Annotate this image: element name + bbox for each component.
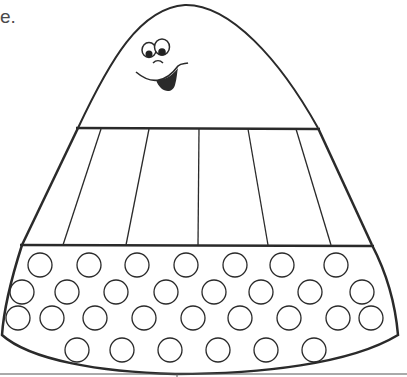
dot-circle [298, 280, 322, 304]
dot-circle [132, 306, 156, 330]
smile [136, 63, 188, 80]
dot-circle [158, 338, 182, 362]
stripe-line [198, 129, 199, 245]
dot-circle [350, 280, 374, 304]
dot-circle [6, 306, 30, 330]
bottom-band-divider [20, 245, 374, 246]
dot-circle [223, 253, 247, 277]
dot-circle [40, 306, 64, 330]
dot-circle [181, 306, 205, 330]
middle-band-stripes [63, 129, 331, 245]
dot-circle [65, 338, 89, 362]
dot-circle [28, 253, 52, 277]
right-pupil [158, 48, 166, 56]
dot-circle [249, 280, 273, 304]
dot-circle [110, 338, 134, 362]
stripe-line [126, 129, 149, 245]
dot-circle [77, 253, 101, 277]
candy-corn-top-outline [78, 5, 318, 128]
bottom-band-circles [6, 253, 383, 362]
dot-circle [302, 338, 326, 362]
stripe-line [248, 129, 268, 245]
dot-circle [55, 280, 79, 304]
dot-circle [174, 253, 198, 277]
top-band-divider [76, 128, 320, 129]
middle-band-left-edge [22, 128, 78, 245]
dot-circle [154, 280, 178, 304]
dot-circle [359, 306, 383, 330]
candy-corn-bottom-outline [2, 245, 398, 374]
candy-corn-drawing [0, 0, 407, 377]
dot-circle [270, 253, 294, 277]
dot-circle [83, 306, 107, 330]
dot-circle [228, 306, 252, 330]
dot-circle [326, 306, 350, 330]
left-pupil [146, 51, 153, 58]
dot-circle [324, 253, 348, 277]
dot-circle [254, 338, 278, 362]
dot-circle [202, 280, 226, 304]
dot-circle [104, 280, 128, 304]
dot-circle [10, 280, 34, 304]
nose-mouth-crease [153, 61, 163, 63]
dot-circle [125, 253, 149, 277]
dot-circle [206, 338, 230, 362]
dot-circle [277, 306, 301, 330]
smiley-face [136, 39, 188, 91]
